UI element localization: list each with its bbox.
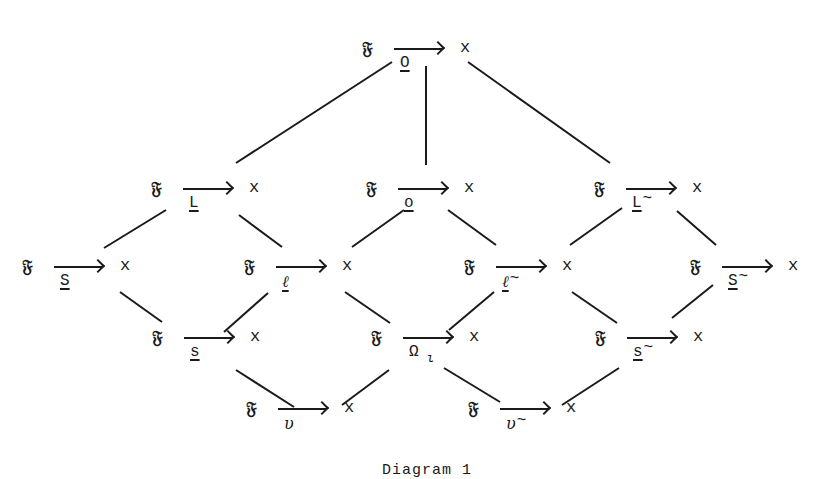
target-symbol: x [249, 178, 259, 197]
morphism-label: o [404, 194, 414, 212]
source-symbol: 𝔉 [371, 327, 382, 347]
morphism-label-text: υ [284, 414, 294, 433]
source-symbol: 𝔉 [595, 327, 606, 347]
target-symbol: x [344, 398, 354, 417]
morphism-label: S~ [728, 272, 748, 290]
morphism-label: Ωι [409, 343, 434, 361]
source-symbol: 𝔉 [366, 178, 377, 198]
morphism-label: L [189, 194, 199, 212]
morphism-label: O [400, 54, 410, 72]
right-arrow-icon [398, 188, 446, 190]
edge-s-to-upsilon [236, 370, 294, 407]
target-symbol: x [562, 256, 572, 275]
source-symbol: 𝔉 [22, 256, 33, 276]
right-arrow-icon [403, 337, 451, 339]
edge-o-to-ell [352, 210, 404, 247]
edge-ell~-to-s~ [572, 292, 617, 323]
tilde-mark: ~ [644, 339, 654, 357]
morphism-label-text: S [728, 272, 738, 290]
morphism-label-text: L [189, 194, 199, 212]
target-symbol: x [469, 327, 479, 346]
morphism-label-subscript: ι [427, 351, 435, 366]
source-symbol: 𝔉 [244, 256, 255, 276]
morphism-label-text: s [190, 343, 200, 361]
tilde-mark: ~ [643, 190, 653, 208]
edge-L-to-ell [239, 215, 282, 247]
edge-S-to-s [120, 292, 162, 322]
right-arrow-icon [500, 408, 548, 410]
source-symbol: 𝔉 [594, 178, 605, 198]
tilde-mark: ~ [739, 268, 749, 286]
source-symbol: 𝔉 [690, 256, 701, 276]
edge-O-to-L [236, 62, 392, 163]
morphism-label-text: O [400, 54, 410, 72]
edge-ell-to-Omega_iota [345, 292, 390, 323]
morphism-label: s~ [633, 343, 653, 361]
morphism-label: S [60, 272, 70, 290]
source-symbol: 𝔉 [152, 327, 163, 347]
morphism-label: ℓ [282, 272, 289, 292]
right-arrow-icon [183, 188, 231, 190]
morphism-label: s [190, 343, 200, 361]
edge-L~-to-ell~ [570, 208, 622, 245]
morphism-label-text: ℓ [282, 272, 289, 291]
source-symbol: 𝔉 [464, 256, 475, 276]
edge-O-to-L~ [468, 62, 610, 163]
morphism-label-text: L [632, 194, 642, 212]
diagram-caption: Diagram 1 [382, 462, 472, 479]
edge-L~-to-S~ [677, 211, 716, 245]
morphism-label: υ [284, 414, 294, 434]
source-symbol: 𝔉 [362, 38, 373, 58]
edge-L-to-S [104, 210, 166, 248]
morphism-label-text: υ [506, 414, 516, 433]
target-symbol: x [460, 38, 470, 57]
morphism-label: υ~ [506, 414, 526, 434]
edge-S~-to-s~ [672, 285, 713, 318]
right-arrow-icon [278, 408, 326, 410]
target-symbol: x [693, 327, 703, 346]
target-symbol: x [566, 398, 576, 417]
right-arrow-icon [496, 266, 544, 268]
right-arrow-icon [394, 48, 442, 50]
right-arrow-icon [276, 266, 324, 268]
tilde-mark: ~ [510, 270, 520, 288]
morphism-label-text: S [60, 272, 70, 290]
source-symbol: 𝔉 [246, 398, 257, 418]
target-symbol: x [464, 178, 474, 197]
edge-Omega_iota-to-upsilon~ [444, 368, 500, 402]
target-symbol: x [692, 178, 702, 197]
edge-ell-to-s [224, 293, 268, 332]
target-symbol: x [250, 327, 260, 346]
morphism-label-text: o [404, 194, 414, 212]
source-symbol: 𝔉 [468, 398, 479, 418]
morphism-label: ℓ~ [502, 272, 519, 292]
target-symbol: x [120, 256, 130, 275]
tilde-mark: ~ [517, 412, 527, 430]
morphism-label-text: ℓ [502, 272, 509, 291]
morphism-label: L~ [632, 194, 652, 212]
target-symbol: x [788, 256, 798, 275]
edge-ell~-to-Omega_iota [449, 292, 494, 330]
morphism-label-text: Ω [409, 343, 419, 361]
right-arrow-icon [54, 266, 102, 268]
source-symbol: 𝔉 [151, 178, 162, 198]
edge-o-to-ell~ [448, 210, 496, 245]
morphism-label-text: s [633, 343, 643, 361]
target-symbol: x [342, 256, 352, 275]
right-arrow-icon [184, 337, 232, 339]
